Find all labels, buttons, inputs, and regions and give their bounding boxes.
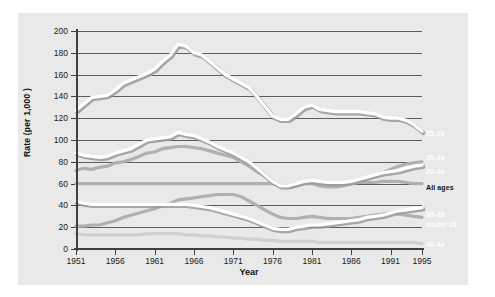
y-tick-label: 100 (54, 136, 68, 145)
y-axis-line (76, 29, 78, 251)
x-tick (233, 250, 234, 255)
legend-label-20-24: 20-24 (426, 168, 444, 175)
series-lines (76, 31, 422, 249)
y-tick-label: 80 (59, 158, 68, 167)
chart-figure: Rate (per 1,000 ) 0204060801001201401601… (0, 0, 495, 297)
y-tick-label: 60 (59, 180, 68, 189)
legend-label-35-39: 35-39 (426, 211, 444, 218)
x-tick (76, 250, 77, 255)
x-tick-label: 1951 (67, 257, 86, 266)
x-tick (115, 250, 116, 255)
y-tick-label: 140 (54, 92, 68, 101)
y-tick-label: 120 (54, 114, 68, 123)
x-tick-label: 1966 (184, 257, 203, 266)
x-tick (194, 250, 195, 255)
y-tick-label: 40 (59, 201, 68, 210)
y-tick-label: 160 (54, 71, 68, 80)
x-tick (391, 250, 392, 255)
x-tick-label: 1956 (106, 257, 125, 266)
x-tick-label: 1971 (224, 257, 243, 266)
legend-label-all-ages: All ages (426, 184, 454, 191)
x-tick (422, 250, 423, 255)
legend-label-under-20: Under 20 (426, 221, 457, 228)
x-tick (155, 250, 156, 255)
x-tick-label: 1976 (263, 257, 282, 266)
plot-area (76, 31, 422, 249)
series-line-25-29 (76, 44, 422, 131)
x-tick-label: 1991 (381, 257, 400, 266)
x-axis-title: Year (76, 267, 422, 277)
y-tick-label: 20 (59, 223, 68, 232)
x-tick-label: 1981 (302, 257, 321, 266)
legend-label-30-34: 30-34 (426, 154, 444, 161)
x-tick (351, 250, 352, 255)
x-tick-label: 1961 (145, 257, 164, 266)
y-tick-label: 180 (54, 49, 68, 58)
y-axis-ticks: 020406080100120140160180200 (0, 31, 76, 249)
x-tick (312, 250, 313, 255)
x-tick-label: 1986 (342, 257, 361, 266)
y-tick-label: 200 (54, 27, 68, 36)
legend-label-40-44: 40-44 (426, 241, 444, 248)
y-tick-label: 0 (63, 245, 68, 254)
x-tick-label: 1995 (413, 257, 432, 266)
x-tick (273, 250, 274, 255)
legend-label-25-29: 25-29 (426, 130, 444, 137)
